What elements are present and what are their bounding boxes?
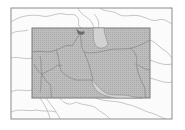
locator-map xyxy=(0,0,185,130)
highlight-region xyxy=(32,28,150,98)
highlight-box xyxy=(32,28,150,98)
